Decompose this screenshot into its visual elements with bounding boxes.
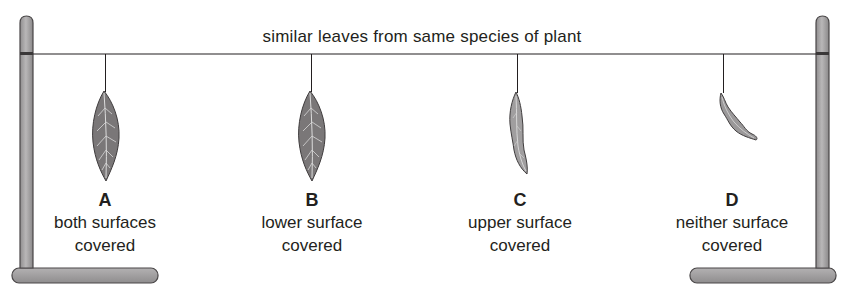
leaf-d-icon — [720, 93, 757, 140]
leaf-condition-line1: upper surface — [420, 211, 620, 234]
leaf-condition-line2: covered — [212, 234, 412, 257]
label-leaf-b: B lower surface covered — [212, 189, 412, 257]
left-clamp — [20, 52, 33, 55]
label-leaf-a: A both surfaces covered — [5, 189, 205, 257]
leaf-a-icon — [93, 91, 120, 181]
leaf-letter: B — [212, 189, 412, 211]
label-leaf-c: C upper surface covered — [420, 189, 620, 257]
leaf-transpiration-diagram: similar leaves from same species of plan… — [0, 0, 844, 294]
leaf-letter: A — [5, 189, 205, 211]
left-base — [12, 268, 158, 283]
leaf-condition-line2: covered — [5, 234, 205, 257]
leaf-condition-line1: lower surface — [212, 211, 412, 234]
leaf-b-icon — [299, 91, 326, 181]
leaf-condition-line1: both surfaces — [5, 211, 205, 234]
right-clamp — [816, 52, 829, 55]
leaf-condition-line2: covered — [632, 234, 832, 257]
leaf-c-icon — [510, 92, 527, 174]
diagram-title: similar leaves from same species of plan… — [0, 27, 844, 47]
right-base — [690, 268, 836, 283]
leaf-letter: D — [632, 189, 832, 211]
label-leaf-d: D neither surface covered — [632, 189, 832, 257]
leaf-condition-line2: covered — [420, 234, 620, 257]
leaf-condition-line1: neither surface — [632, 211, 832, 234]
leaf-letter: C — [420, 189, 620, 211]
